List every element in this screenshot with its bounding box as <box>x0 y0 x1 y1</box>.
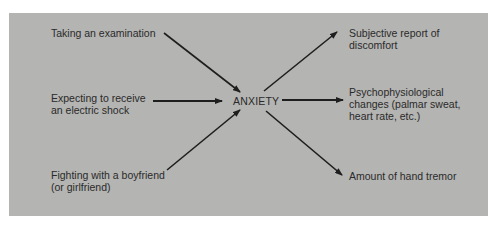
cause-examination: Taking an examination <box>51 27 155 39</box>
effect-subjective-report: Subjective report of discomfort <box>349 27 439 51</box>
cause-examination-line-1: Taking an examination <box>51 27 155 39</box>
effect-hand-tremor: Amount of hand tremor <box>349 170 456 182</box>
cause-fighting-line-1: Fighting with a boyfriend <box>51 169 165 181</box>
arrow-anxiety-to-subjective <box>264 32 337 91</box>
arrow-anxiety-to-tremor <box>266 111 342 175</box>
arrow-examination-to-anxiety <box>164 33 240 92</box>
effect-psychophysiological-line-3: heart rate, etc.) <box>349 110 460 122</box>
effect-psychophysiological-line-2: changes (palmar sweat, <box>349 98 460 110</box>
effect-psychophysiological-line-1: Psychophysiological <box>349 86 460 98</box>
effect-hand-tremor-line-1: Amount of hand tremor <box>349 170 456 182</box>
effect-psychophysiological: Psychophysiological changes (palmar swea… <box>349 86 460 122</box>
center-anxiety: ANXIETY <box>233 95 279 107</box>
cause-electric-shock-line-2: an electric shock <box>51 104 146 116</box>
cause-fighting-line-2: (or girlfriend) <box>51 181 165 193</box>
effect-subjective-report-line-2: discomfort <box>349 39 439 51</box>
arrow-fighting-to-anxiety <box>167 110 240 170</box>
cause-fighting: Fighting with a boyfriend (or girlfriend… <box>51 169 165 193</box>
cause-electric-shock-line-1: Expecting to receive <box>51 92 146 104</box>
cause-electric-shock: Expecting to receive an electric shock <box>51 92 146 116</box>
effect-subjective-report-line-1: Subjective report of <box>349 27 439 39</box>
